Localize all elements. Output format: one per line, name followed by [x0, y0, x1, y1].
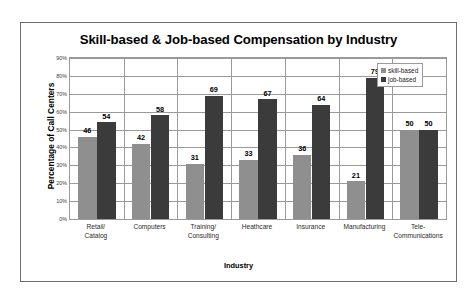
bar-job-based[interactable]: 79 [366, 78, 385, 219]
bar-value-label: 21 [352, 171, 360, 180]
legend-item-skill[interactable]: skill-based [381, 66, 418, 75]
chart-frame: Skill-based & Job-based Compensation by … [20, 22, 457, 282]
bar-job-based[interactable]: 64 [312, 105, 331, 219]
y-axis-tick-label: 20% [56, 180, 67, 186]
legend-item-job[interactable]: job-based [381, 75, 418, 84]
y-axis-tick-label: 90% [56, 55, 67, 61]
bar-group: 3664 [285, 58, 339, 219]
y-axis-tick-label: 80% [56, 73, 67, 79]
legend-swatch-icon [381, 77, 386, 82]
chart-title: Skill-based & Job-based Compensation by … [21, 32, 456, 47]
bar-skill-based[interactable]: 21 [347, 181, 366, 219]
bar-value-label: 33 [244, 149, 252, 158]
bar-group: 4258 [124, 58, 178, 219]
bar-value-label: 69 [210, 85, 218, 94]
y-axis-title: Percentage of Call Centers [46, 61, 56, 211]
x-axis-category-labels: Retail/CatalogComputersTraining/Consulti… [69, 222, 447, 258]
bar-skill-based[interactable]: 31 [186, 164, 205, 219]
bar-value-label: 58 [156, 105, 164, 114]
category-label-line: Tele- [381, 222, 455, 231]
y-axis-tick-label: 30% [56, 162, 67, 168]
bar-value-label: 67 [263, 89, 271, 98]
bar-job-based[interactable]: 58 [151, 115, 170, 219]
y-axis-tick-label: 10% [56, 198, 67, 204]
y-axis-tick-label: 70% [56, 91, 67, 97]
category-label-line: Consulting [166, 231, 240, 240]
y-axis-tick-label: 60% [56, 109, 67, 115]
bar-value-label: 46 [83, 126, 91, 135]
bar-group: 3169 [177, 58, 231, 219]
bar-value-label: 64 [317, 94, 325, 103]
gridline [70, 219, 446, 220]
bar-job-based[interactable]: 50 [419, 130, 438, 219]
category-label-line: Communications [381, 231, 455, 240]
legend-label: skill-based [388, 67, 418, 74]
bar-job-based[interactable]: 54 [97, 122, 116, 219]
legend-swatch-icon [381, 68, 386, 73]
y-axis-tick-label: 50% [56, 127, 67, 133]
x-axis-category-label: Tele-Communications [381, 222, 455, 240]
bar-value-label: 54 [102, 112, 110, 121]
bar-value-label: 50 [425, 119, 433, 128]
bar-group: 3367 [231, 58, 285, 219]
bar-skill-based[interactable]: 50 [400, 130, 419, 219]
bar-value-label: 42 [137, 133, 145, 142]
chart-legend: skill-basedjob-based [377, 63, 423, 87]
x-axis-title: Industry [21, 261, 456, 270]
bar-skill-based[interactable]: 33 [239, 160, 258, 219]
category-label-line: Catalog [59, 231, 133, 240]
bar-job-based[interactable]: 69 [205, 96, 224, 219]
bar-value-label: 31 [191, 153, 199, 162]
legend-label: job-based [388, 76, 416, 83]
y-axis-tick-label: 40% [56, 144, 67, 150]
bar-value-label: 50 [406, 119, 414, 128]
bar-group: 4654 [70, 58, 124, 219]
bar-skill-based[interactable]: 42 [132, 144, 151, 219]
bar-value-label: 36 [298, 144, 306, 153]
bar-skill-based[interactable]: 36 [293, 155, 312, 219]
bar-job-based[interactable]: 67 [258, 99, 277, 219]
bar-skill-based[interactable]: 46 [78, 137, 97, 219]
